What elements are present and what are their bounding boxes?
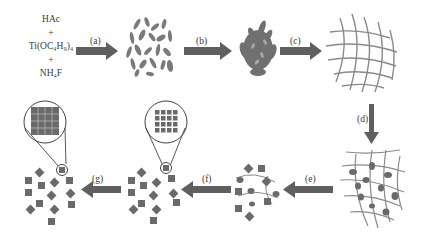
arrow-right-icon — [184, 42, 232, 60]
scattered-nanosheets — [125, 17, 174, 78]
cube-cluster-gapped — [128, 101, 187, 224]
cube-cluster-dense — [24, 101, 75, 225]
arrow-down-icon — [364, 104, 379, 144]
arrow-right-icon — [76, 42, 118, 60]
arrow-left-icon — [81, 181, 121, 198]
arrow-right-icon — [280, 42, 322, 60]
diagram-graphics — [0, 0, 426, 244]
fiber-network-with-particles — [340, 150, 405, 228]
embedded-particles — [349, 162, 399, 216]
synthesis-diagram: HAc + Ti(OC₄H₉)₄ + NH₄F (a) (b) (c) (d) … — [0, 0, 426, 244]
aggregated-nanosheets — [238, 19, 278, 76]
arrow-left-icon — [181, 181, 231, 198]
fiber-network — [326, 14, 397, 92]
arrow-left-icon — [283, 181, 333, 198]
